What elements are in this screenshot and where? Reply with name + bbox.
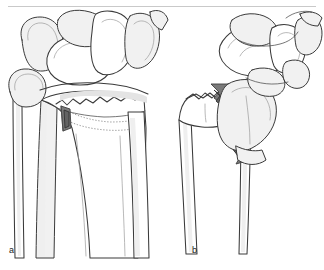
carpal-pisiform-b bbox=[283, 60, 310, 88]
illustration-artwork: .ol { fill:none; stroke:#3a3a3a; stroke-… bbox=[0, 0, 324, 270]
panel-label-b: b bbox=[192, 246, 197, 255]
panel-a-artwork bbox=[9, 10, 168, 258]
bone-fragment-dark-a-inner bbox=[64, 110, 69, 128]
panel-label-a: a bbox=[9, 246, 14, 255]
panel-b-artwork bbox=[179, 11, 322, 254]
figure-container: .ol { fill:none; stroke:#3a3a3a; stroke-… bbox=[0, 0, 324, 270]
